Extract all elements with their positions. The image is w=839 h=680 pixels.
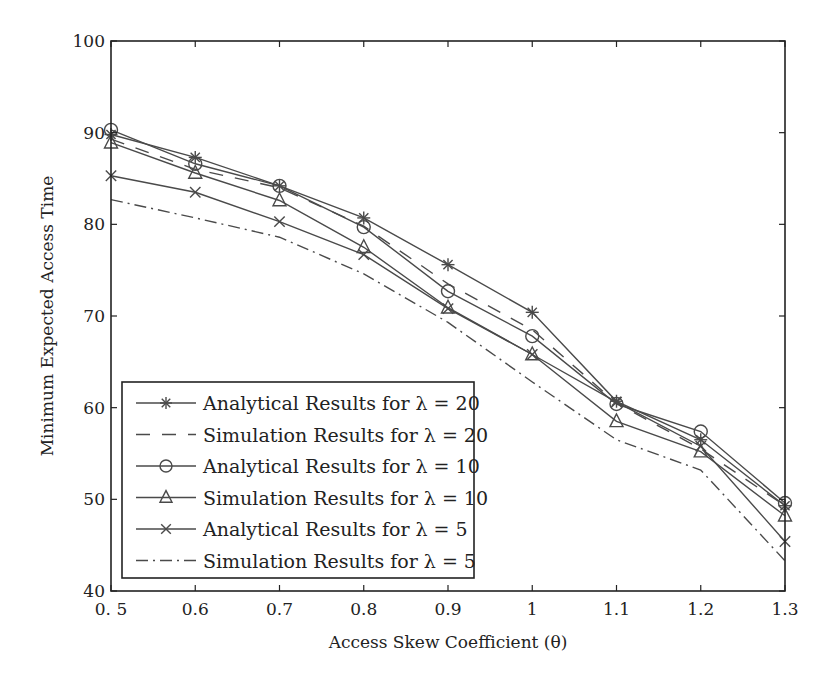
asterisk-marker-icon bbox=[160, 397, 172, 409]
legend-label: Analytical Results for λ = 5 bbox=[202, 518, 468, 540]
x-marker-icon bbox=[274, 216, 284, 226]
x-tick-label: 1.3 bbox=[771, 599, 798, 619]
y-tick-label: 50 bbox=[83, 489, 105, 509]
legend: Analytical Results for λ = 20Simulation … bbox=[122, 382, 488, 578]
legend-label: Analytical Results for λ = 10 bbox=[202, 455, 480, 477]
legend-label: Simulation Results for λ = 20 bbox=[203, 424, 488, 446]
y-tick-label: 70 bbox=[83, 306, 105, 326]
x-tick-label: 1.2 bbox=[687, 599, 714, 619]
x-tick-label: 1.1 bbox=[603, 599, 630, 619]
y-tick-label: 100 bbox=[73, 31, 105, 51]
x-tick-label: 1 bbox=[527, 599, 538, 619]
x-tick-label: 0.7 bbox=[266, 599, 293, 619]
asterisk-marker-icon bbox=[526, 306, 539, 319]
asterisk-marker-icon bbox=[442, 258, 455, 271]
legend-label: Analytical Results for λ = 20 bbox=[202, 392, 480, 414]
triangle-marker-icon bbox=[610, 414, 623, 427]
legend-label: Simulation Results for λ = 5 bbox=[203, 550, 476, 572]
y-tick-label: 60 bbox=[83, 398, 105, 418]
x-axis-title: Access Skew Coefficient (θ) bbox=[328, 632, 568, 652]
x-tick-label: 0. 5 bbox=[95, 599, 127, 619]
y-tick-label: 80 bbox=[83, 214, 105, 234]
y-tick-label: 40 bbox=[83, 581, 105, 601]
x-marker-icon bbox=[359, 249, 369, 259]
x-tick-label: 0.8 bbox=[350, 599, 377, 619]
y-axis-title: Minimum Expected Access Time bbox=[37, 176, 57, 457]
y-tick-label: 90 bbox=[83, 123, 105, 143]
line-chart: 0. 50.60.70.80.911.11.21.340506070809010… bbox=[0, 0, 839, 680]
legend-label: Simulation Results for λ = 10 bbox=[203, 487, 488, 509]
x-tick-label: 0.6 bbox=[182, 599, 209, 619]
x-tick-label: 0.9 bbox=[434, 599, 461, 619]
